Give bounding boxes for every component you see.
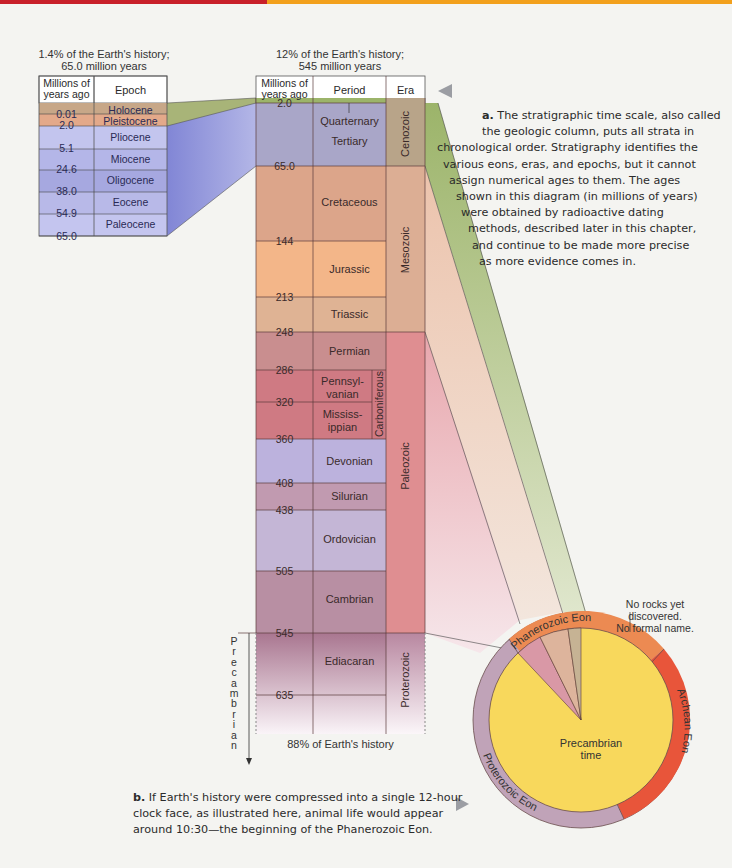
caption-a-line: various eons, eras, and epochs, but it c…: [443, 157, 732, 173]
caption-a-pointer-icon: [438, 84, 452, 98]
period-tick: 286: [256, 364, 313, 376]
era-cenozoic: Cenozoic: [399, 111, 411, 157]
period-tick: 320: [256, 396, 313, 408]
period-permian: Permian: [313, 345, 386, 357]
epoch-pleistocene: Pleistocene: [94, 115, 167, 127]
precambrian-footer: 88% of Earth's history: [256, 738, 425, 750]
no-rocks-note: No rocks yet discovered. No formal name.: [600, 598, 710, 634]
period-cambrian: Cambrian: [313, 593, 386, 605]
note-line: No formal name.: [600, 622, 710, 634]
epoch-tick: 2.0: [39, 119, 94, 131]
precambrian-letter: n: [229, 740, 239, 750]
period-quaternary: Quarternary: [313, 115, 386, 127]
caption-a-line: chronological order. Stratigraphy identi…: [437, 140, 732, 156]
period-ediacaran: Ediacaran: [313, 655, 386, 667]
period-tick: 144: [256, 235, 313, 247]
period-ordovician: Ordovician: [313, 533, 386, 545]
caption-a-line: assign numerical ages to them. The ages: [449, 173, 732, 189]
precambrian-time-label: Precambrian time: [541, 737, 641, 761]
center-label-line: Precambrian: [541, 737, 641, 749]
precambrian-vertical-label: Precambrian: [229, 636, 239, 750]
period-tick: 408: [256, 477, 313, 489]
caption-b-text: If Earth's history were compressed into …: [145, 791, 462, 804]
caption-b-line: around 10:30—the beginning of the Phaner…: [133, 822, 463, 838]
subgroup-carboniferous: Carboniferous: [373, 371, 385, 437]
era-proterozoic: Proterozoic: [399, 652, 411, 708]
epoch-tick: 5.1: [39, 142, 94, 154]
caption-a-line: as more evidence comes in.: [479, 254, 732, 270]
period-silurian: Silurian: [313, 490, 386, 502]
epoch-tick: 65.0: [39, 230, 94, 242]
note-line: discovered.: [600, 610, 710, 622]
period-name-line: vanian: [313, 388, 372, 401]
period-tick: 65.0: [256, 160, 313, 172]
period-tick: 635: [256, 689, 313, 701]
period-tick: 360: [256, 433, 313, 445]
epoch-zoom-fan: [167, 103, 256, 236]
epoch-tick: 38.0: [39, 185, 94, 197]
period-name-line: ippian: [313, 421, 372, 434]
header-line: years ago: [39, 89, 94, 100]
epoch-miocene: Miocene: [94, 153, 167, 165]
epoch-paleocene: Paleocene: [94, 218, 167, 230]
period-tick: 248: [256, 326, 313, 338]
caption-b-line: b. If Earth's history were compressed in…: [133, 790, 463, 806]
period-tick: 545: [256, 627, 313, 639]
period-tick: 213: [256, 291, 313, 303]
caption-a-line: the geologic column, puts all strata in: [482, 124, 732, 140]
note-line: No rocks yet: [600, 598, 710, 610]
period-col-header-period: Period: [313, 84, 386, 96]
epoch-tick: 24.6: [39, 163, 94, 175]
period-col-header-era: Era: [386, 84, 425, 96]
geologic-clock: Phanerozoic Eon Archean Eon Proterozoic …: [473, 611, 695, 828]
epoch-pliocene: Pliocene: [94, 131, 167, 143]
caption-a-text: The stratigraphic time scale, also calle…: [494, 109, 721, 122]
period-tertiary: Tertiary: [313, 135, 386, 147]
period-devonian: Devonian: [313, 455, 386, 467]
period-tick: 2.0: [256, 97, 313, 109]
period-jurassic: Jurassic: [313, 263, 386, 275]
caption-a-line: shown in this diagram (in millions of ye…: [456, 189, 732, 205]
caption-a-line: methods, described later in this chapter…: [468, 221, 732, 237]
period-triassic: Triassic: [313, 308, 386, 320]
period-cretaceous: Cretaceous: [313, 196, 386, 208]
caption-b: b. If Earth's history were compressed in…: [133, 790, 463, 839]
period-pennsylvanian: Pennsyl- vanian: [313, 375, 372, 401]
center-label-line: time: [541, 749, 641, 761]
caption-b-line: clock face, as illustrated here, animal …: [133, 806, 463, 822]
caption-a-line: and continue to be made more precise: [472, 238, 732, 254]
epoch-col-header-millions: Millions of years ago: [39, 78, 94, 100]
period-tick: 438: [256, 504, 313, 516]
epoch-tick: 54.9: [39, 207, 94, 219]
caption-a-label: a.: [482, 109, 494, 122]
period-tick: 505: [256, 565, 313, 577]
caption-a-line: a. The stratigraphic time scale, also ca…: [482, 108, 732, 124]
period-name-line: Pennsyl-: [313, 375, 372, 388]
epoch-col-header-epoch: Epoch: [94, 84, 167, 96]
period-mississippian: Mississ- ippian: [313, 408, 372, 434]
era-mesozoic: Mesozoic: [399, 227, 411, 273]
period-name-line: Mississ-: [313, 408, 372, 421]
caption-b-label: b.: [133, 791, 145, 804]
epoch-eocene: Eocene: [94, 196, 167, 208]
caption-a: a. The stratigraphic time scale, also ca…: [456, 108, 732, 270]
caption-a-line: were obtained by radioactive dating: [461, 205, 732, 221]
era-paleozoic: Paleozoic: [399, 442, 411, 490]
epoch-oligocene: Oligocene: [94, 174, 167, 186]
